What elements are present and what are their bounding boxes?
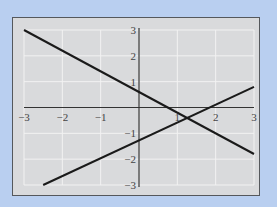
x-tick-label: 3 xyxy=(251,111,257,123)
x-tick-label: −1 xyxy=(95,111,107,123)
x-tick-label: −3 xyxy=(18,111,30,123)
axes xyxy=(24,28,254,187)
y-tick-label: −1 xyxy=(124,127,136,139)
y-tick-label: −2 xyxy=(124,153,136,165)
y-tick-label: 1 xyxy=(131,76,137,88)
y-tick-label: 2 xyxy=(131,50,137,62)
y-tick-label: 3 xyxy=(131,24,137,36)
line-chart: −3−2−1123321−1−2−3 xyxy=(0,0,277,207)
x-tick-label: 2 xyxy=(213,111,219,123)
x-tick-label: −2 xyxy=(56,111,68,123)
y-tick-label: −3 xyxy=(124,179,136,191)
